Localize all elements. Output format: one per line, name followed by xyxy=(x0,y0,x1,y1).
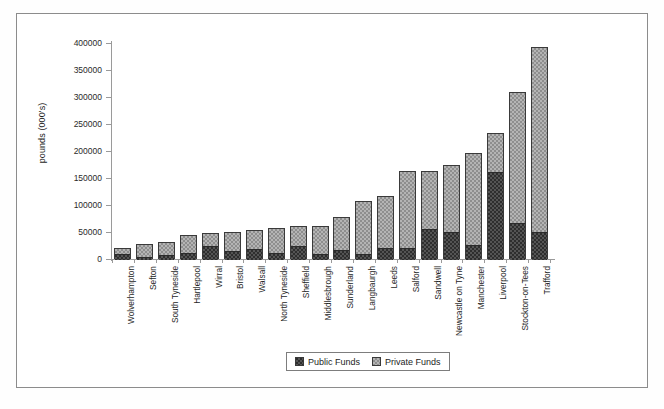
bar-segment-public-funds xyxy=(137,257,152,260)
bar-stack xyxy=(268,228,285,259)
bar-segment-public-funds xyxy=(466,245,481,260)
x-axis-tick xyxy=(441,259,442,263)
bar-segment-public-funds xyxy=(115,254,130,260)
x-axis-tick xyxy=(331,259,332,263)
bar-segment-private-funds xyxy=(247,231,262,249)
bar-stack xyxy=(333,217,350,259)
bar-segment-public-funds xyxy=(269,253,284,260)
bar-segment-public-funds xyxy=(488,172,503,260)
x-axis-category-label: Langbaurgh xyxy=(368,266,377,362)
bar-stack xyxy=(136,244,153,259)
bar-stack xyxy=(114,248,131,259)
x-axis-category-label: Newcastle on Tyne xyxy=(455,266,464,362)
x-axis-category-label: Walsall xyxy=(258,266,267,362)
x-axis-category-label: Sunderland xyxy=(346,266,355,362)
bar-segment-public-funds xyxy=(291,246,306,260)
x-axis-tick xyxy=(309,259,310,263)
bar-segment-private-funds xyxy=(203,234,218,246)
y-axis-tick-label: 150000 xyxy=(56,174,102,183)
bar-segment-private-funds xyxy=(444,166,459,232)
bar-segment-public-funds xyxy=(532,232,547,260)
legend-item-private: Private Funds xyxy=(372,357,441,367)
x-axis-category-label: Trafford xyxy=(543,266,552,362)
bar-segment-public-funds xyxy=(510,223,525,260)
x-axis-category-label: Stockton-on-Tees xyxy=(521,266,530,362)
bar-stack xyxy=(487,133,504,259)
bar-stack xyxy=(246,230,263,259)
x-axis-category-label: South Tyneside xyxy=(171,266,180,362)
bar-segment-private-funds xyxy=(488,134,503,172)
y-axis-tick xyxy=(106,124,112,125)
bar-segment-private-funds xyxy=(137,245,152,257)
y-axis-tick-label: 300000 xyxy=(56,93,102,102)
x-axis-category-label: Sheffield xyxy=(302,266,311,362)
x-axis-category-label: Leeds xyxy=(390,266,399,362)
y-axis-tick-label: 350000 xyxy=(56,66,102,75)
y-axis-tick-label: 0 xyxy=(56,255,102,264)
bar-segment-private-funds xyxy=(422,172,437,229)
bar-stack xyxy=(531,47,548,259)
bar-stack xyxy=(399,171,416,259)
bar-segment-private-funds xyxy=(291,227,306,246)
x-axis-category-label: Sefton xyxy=(149,266,158,362)
bar-segment-private-funds xyxy=(181,236,196,253)
bar-stack xyxy=(202,233,219,259)
bar-segment-private-funds xyxy=(159,243,174,255)
bar-segment-private-funds xyxy=(269,229,284,253)
y-axis-tick xyxy=(106,232,112,233)
x-axis-tick xyxy=(375,259,376,263)
bar-segment-private-funds xyxy=(466,154,481,245)
bar-segment-public-funds xyxy=(334,250,349,260)
y-axis-tick xyxy=(106,151,112,152)
bar-segment-private-funds xyxy=(313,227,328,255)
y-axis-tick xyxy=(106,205,112,206)
bar-segment-public-funds xyxy=(159,255,174,260)
x-axis-category-label: Salford xyxy=(412,266,421,362)
bar-segment-public-funds xyxy=(422,229,437,260)
bar-stack xyxy=(312,226,329,259)
y-axis-tick-label: 50000 xyxy=(56,228,102,237)
y-axis-tick-label: 400000 xyxy=(56,39,102,48)
y-axis-tick xyxy=(106,70,112,71)
bar-segment-public-funds xyxy=(181,253,196,260)
bar-segment-private-funds xyxy=(378,197,393,247)
x-axis-tick xyxy=(287,259,288,263)
x-axis-tick xyxy=(112,259,113,263)
bar-stack xyxy=(421,171,438,259)
bar-stack xyxy=(224,232,241,259)
bar-segment-public-funds xyxy=(203,246,218,260)
x-axis-tick xyxy=(462,259,463,263)
bar-segment-private-funds xyxy=(400,172,415,248)
x-axis-tick xyxy=(550,259,551,263)
y-axis-tick xyxy=(106,43,112,44)
x-axis-tick xyxy=(178,259,179,263)
x-axis-tick xyxy=(200,259,201,263)
bar-segment-public-funds xyxy=(400,248,415,260)
x-axis-tick xyxy=(156,259,157,263)
plot-area xyxy=(112,43,550,259)
x-axis-tick xyxy=(243,259,244,263)
x-axis-tick xyxy=(506,259,507,263)
x-axis-tick xyxy=(484,259,485,263)
x-axis-category-label: Liverpool xyxy=(499,266,508,362)
bar-segment-private-funds xyxy=(532,48,547,232)
y-axis-tick-label: 200000 xyxy=(56,147,102,156)
x-axis-category-label: Bristol xyxy=(236,266,245,362)
bar-stack xyxy=(158,242,175,259)
y-axis-tick xyxy=(106,97,112,98)
y-axis-tick-label: 250000 xyxy=(56,120,102,129)
y-axis-title: pounds (000's) xyxy=(37,73,47,193)
x-axis-tick xyxy=(419,259,420,263)
bar-segment-public-funds xyxy=(247,249,262,260)
bar-stack xyxy=(509,92,526,259)
x-axis-tick xyxy=(134,259,135,263)
bar-segment-public-funds xyxy=(225,251,240,260)
bar-stack xyxy=(443,165,460,259)
bar-segment-public-funds xyxy=(356,254,371,260)
bar-segment-public-funds xyxy=(378,248,393,260)
x-axis-tick xyxy=(222,259,223,263)
bar-segment-private-funds xyxy=(356,202,371,254)
bar-segment-private-funds xyxy=(334,218,349,250)
x-axis-category-label: Hartlepool xyxy=(193,266,202,362)
y-axis-tick-labels: 4000003500003000002500002000001500001000… xyxy=(50,0,102,409)
